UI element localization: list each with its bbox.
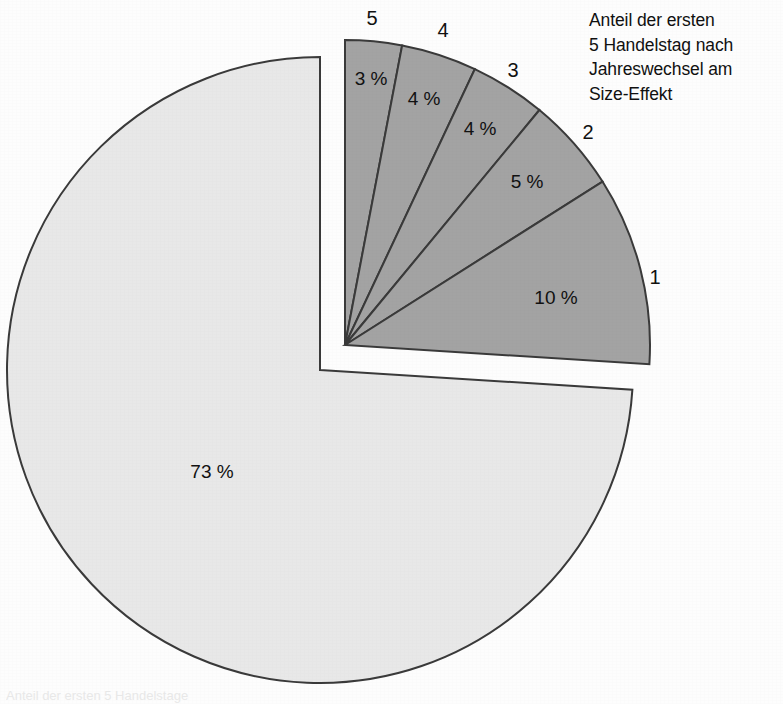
chart-title-line-1: Anteil der ersten <box>589 8 783 33</box>
chart-title-line-2: 5 Handelstag nach <box>589 33 783 58</box>
slice-value-label-2: 5 % <box>511 171 544 192</box>
chart-title-line-4: Size-Effekt <box>589 82 783 107</box>
slice-leader-5: 5 <box>366 7 377 29</box>
slice-value-label-1: 10 % <box>534 287 577 308</box>
slice-leader-3: 3 <box>507 59 518 81</box>
slice-leader-1: 1 <box>649 266 660 288</box>
chart-title-block: Anteil der ersten 5 Handelstag nach Jahr… <box>589 8 783 106</box>
pie-chart-figure: 10 %5 %4 %4 %3 %73 % 12345 Anteil der er… <box>0 0 783 704</box>
slice-leader-4: 4 <box>437 19 448 41</box>
slice-value-label-3: 4 % <box>464 118 497 139</box>
figure-caption-clipped: Anteil der ersten 5 Handelstage <box>6 688 188 703</box>
slice-leader-2: 2 <box>582 121 593 143</box>
slice-value-label-4: 4 % <box>408 88 441 109</box>
chart-title-line-3: Jahreswechsel am <box>589 57 783 82</box>
slice-value-label-Rest: 73 % <box>190 461 233 482</box>
slice-value-label-5: 3 % <box>355 68 388 89</box>
